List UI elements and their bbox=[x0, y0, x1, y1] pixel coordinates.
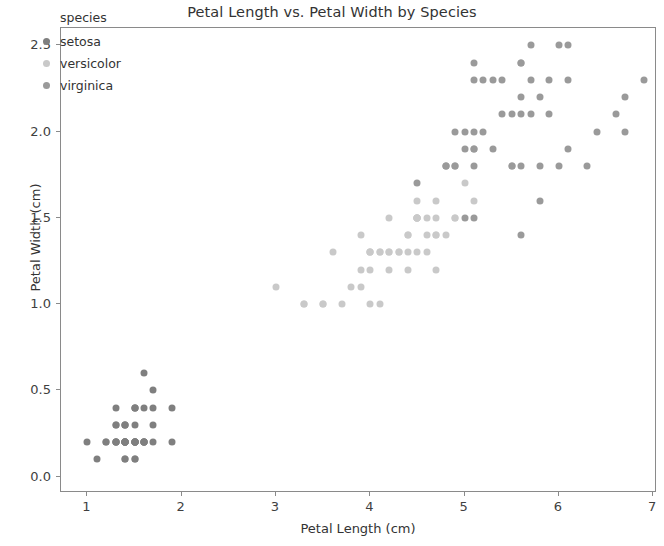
data-point-virginica bbox=[489, 145, 496, 152]
data-point-versicolor bbox=[433, 197, 440, 204]
data-point-virginica bbox=[508, 163, 515, 170]
data-point-virginica bbox=[480, 128, 487, 135]
x-tick bbox=[86, 492, 87, 496]
data-point-versicolor bbox=[433, 214, 440, 221]
data-point-versicolor bbox=[414, 197, 421, 204]
data-point-virginica bbox=[518, 111, 525, 118]
data-point-setosa bbox=[150, 404, 157, 411]
data-point-versicolor bbox=[273, 283, 280, 290]
data-point-virginica bbox=[565, 76, 572, 83]
data-point-versicolor bbox=[376, 301, 383, 308]
data-point-virginica bbox=[471, 128, 478, 135]
data-point-setosa bbox=[131, 404, 138, 411]
y-tick-label: 0.0 bbox=[30, 468, 51, 483]
data-point-setosa bbox=[112, 404, 119, 411]
data-point-versicolor bbox=[471, 197, 478, 204]
x-axis-label: Petal Length (cm) bbox=[60, 521, 656, 536]
data-point-setosa bbox=[103, 439, 110, 446]
legend-marker-icon bbox=[43, 82, 50, 89]
data-point-virginica bbox=[414, 180, 421, 187]
data-point-setosa bbox=[131, 439, 138, 446]
data-point-versicolor bbox=[357, 232, 364, 239]
x-tick-label: 6 bbox=[554, 499, 562, 514]
data-point-versicolor bbox=[433, 232, 440, 239]
data-point-virginica bbox=[461, 128, 468, 135]
data-point-virginica bbox=[612, 111, 619, 118]
data-point-virginica bbox=[621, 94, 628, 101]
data-point-versicolor bbox=[348, 283, 355, 290]
legend-item-virginica[interactable]: virginica bbox=[32, 74, 121, 96]
x-tick-label: 2 bbox=[177, 499, 185, 514]
x-tick-label: 3 bbox=[271, 499, 279, 514]
data-point-setosa bbox=[131, 421, 138, 428]
data-point-virginica bbox=[489, 76, 496, 83]
data-point-setosa bbox=[150, 439, 157, 446]
data-point-setosa bbox=[169, 404, 176, 411]
y-tick bbox=[56, 389, 60, 390]
data-point-versicolor bbox=[301, 301, 308, 308]
data-point-versicolor bbox=[357, 266, 364, 273]
data-point-setosa bbox=[140, 404, 147, 411]
x-tick bbox=[652, 492, 653, 496]
data-point-versicolor bbox=[386, 249, 393, 256]
data-point-virginica bbox=[584, 163, 591, 170]
x-tick-label: 1 bbox=[82, 499, 90, 514]
legend-item-versicolor[interactable]: versicolor bbox=[32, 52, 121, 74]
data-point-virginica bbox=[518, 94, 525, 101]
data-point-virginica bbox=[442, 163, 449, 170]
data-point-virginica bbox=[471, 214, 478, 221]
data-point-setosa bbox=[150, 421, 157, 428]
data-point-versicolor bbox=[423, 249, 430, 256]
data-point-versicolor bbox=[442, 232, 449, 239]
x-tick bbox=[181, 492, 182, 496]
scatter-plot-figure: Petal Length vs. Petal Width by Species … bbox=[0, 0, 664, 546]
y-tick bbox=[56, 303, 60, 304]
data-point-versicolor bbox=[367, 301, 374, 308]
data-point-setosa bbox=[150, 387, 157, 394]
data-point-virginica bbox=[452, 128, 459, 135]
legend-marker-cell bbox=[32, 60, 60, 67]
data-point-virginica bbox=[471, 59, 478, 66]
data-point-virginica bbox=[640, 76, 647, 83]
legend-item-label: versicolor bbox=[60, 56, 121, 71]
data-point-setosa bbox=[84, 439, 91, 446]
x-tick bbox=[275, 492, 276, 496]
legend: species setosaversicolorvirginica bbox=[32, 10, 121, 96]
x-tick-label: 7 bbox=[648, 499, 656, 514]
legend-marker-icon bbox=[43, 38, 50, 45]
data-point-virginica bbox=[518, 163, 525, 170]
legend-entries: setosaversicolorvirginica bbox=[32, 30, 121, 96]
data-point-versicolor bbox=[414, 214, 421, 221]
data-point-versicolor bbox=[376, 249, 383, 256]
y-tick bbox=[56, 476, 60, 477]
data-point-virginica bbox=[546, 76, 553, 83]
y-axis-label: Petal Width (cm) bbox=[28, 118, 43, 358]
data-point-virginica bbox=[471, 163, 478, 170]
data-point-virginica bbox=[537, 197, 544, 204]
data-point-versicolor bbox=[329, 249, 336, 256]
data-point-setosa bbox=[112, 439, 119, 446]
data-point-versicolor bbox=[395, 249, 402, 256]
data-point-virginica bbox=[555, 42, 562, 49]
legend-marker-cell bbox=[32, 38, 60, 45]
data-point-virginica bbox=[461, 214, 468, 221]
data-point-versicolor bbox=[386, 266, 393, 273]
y-tick bbox=[56, 131, 60, 132]
data-point-virginica bbox=[537, 163, 544, 170]
data-point-virginica bbox=[499, 76, 506, 83]
data-point-virginica bbox=[471, 145, 478, 152]
x-tick bbox=[464, 492, 465, 496]
data-point-setosa bbox=[122, 421, 129, 428]
data-point-versicolor bbox=[405, 249, 412, 256]
data-point-setosa bbox=[131, 456, 138, 463]
data-point-setosa bbox=[140, 370, 147, 377]
data-point-versicolor bbox=[433, 266, 440, 273]
y-tick-label: 0.5 bbox=[30, 382, 51, 397]
data-point-virginica bbox=[518, 59, 525, 66]
data-point-virginica bbox=[546, 111, 553, 118]
data-point-versicolor bbox=[405, 266, 412, 273]
x-tick-label: 5 bbox=[459, 499, 467, 514]
data-point-virginica bbox=[471, 76, 478, 83]
legend-item-setosa[interactable]: setosa bbox=[32, 30, 121, 52]
data-point-versicolor bbox=[423, 232, 430, 239]
